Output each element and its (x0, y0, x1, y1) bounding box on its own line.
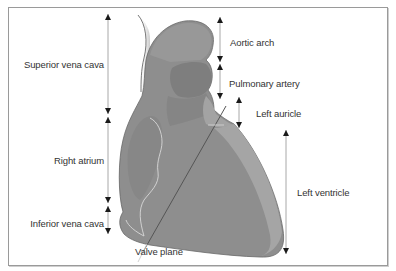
label-aortic-arch: Aortic arch (230, 37, 274, 48)
label-right-atrium: Right atrium (54, 155, 104, 166)
label-pulmonary-artery: Pulmonary artery (229, 78, 300, 89)
label-valve-plane: Valve plane (135, 246, 183, 257)
label-inferior-vena-cava: Inferior vena cava (30, 218, 104, 229)
left-dimension-arrows (105, 14, 111, 234)
label-left-ventricle: Left ventricle (297, 187, 349, 198)
label-superior-vena-cava: Superior vena cava (24, 59, 104, 70)
heart-diagram (0, 0, 396, 271)
label-left-auricle: Left auricle (256, 108, 301, 119)
